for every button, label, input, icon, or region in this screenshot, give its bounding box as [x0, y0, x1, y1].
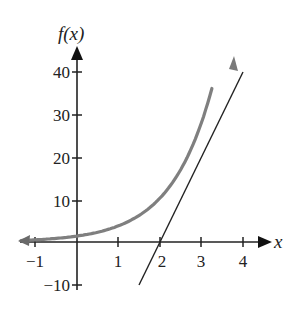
x-tick-4: 4 [239, 252, 248, 271]
graph: 40 30 20 10 −10 f(x) −1 1 2 3 4 x [0, 0, 294, 314]
x-tick-1: 1 [114, 252, 123, 271]
y-tick-40: 40 [53, 63, 70, 82]
x-axis-label: x [273, 231, 283, 252]
y-axis-arrow-icon [71, 46, 83, 60]
curve-left-arrow-icon [18, 235, 30, 246]
curve-top-arrow-icon [229, 56, 238, 71]
y-tick-neg10: −10 [43, 276, 70, 295]
tangent-line [139, 72, 243, 285]
y-axis: 40 30 20 10 −10 f(x) [43, 23, 84, 295]
x-tick-2: 2 [158, 252, 167, 271]
y-tick-30: 30 [53, 106, 70, 125]
x-tick-3: 3 [197, 252, 206, 271]
y-tick-20: 20 [53, 149, 70, 168]
x-tick-neg1: −1 [26, 252, 44, 271]
y-axis-label: f(x) [58, 23, 84, 45]
x-axis-arrow-icon [258, 236, 272, 248]
y-tick-10: 10 [53, 192, 70, 211]
exponential-curve [21, 89, 212, 241]
